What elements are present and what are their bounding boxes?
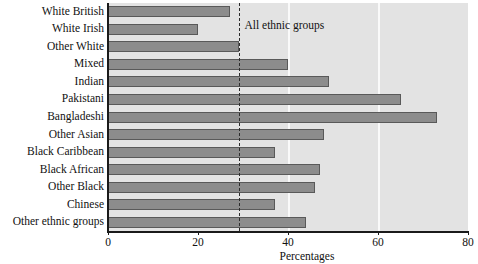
y-axis-line <box>107 3 109 232</box>
category-label-other-black: Other Black <box>48 180 104 192</box>
bar-row <box>108 59 468 70</box>
y-axis-category-labels: White BritishWhite IrishOther WhiteMixed… <box>0 0 104 264</box>
x-tick-label: 0 <box>88 236 128 248</box>
x-tick-label: 40 <box>268 236 308 248</box>
x-tick <box>288 231 289 235</box>
bar <box>108 94 401 105</box>
x-tick <box>198 231 199 235</box>
reference-line-all-ethnic-groups <box>239 3 240 231</box>
x-tick-label: 60 <box>358 236 398 248</box>
bar <box>108 6 230 17</box>
category-label-indian: Indian <box>75 75 104 87</box>
category-label-bangladeshi: Bangladeshi <box>47 110 104 122</box>
bar <box>108 59 288 70</box>
x-tick-label: 80 <box>448 236 478 248</box>
x-tick-label: 20 <box>178 236 218 248</box>
x-axis-title: Percentages <box>0 250 470 262</box>
bar <box>108 41 239 52</box>
category-label-pakistani: Pakistani <box>62 92 104 104</box>
x-tick <box>108 231 109 235</box>
bar-row <box>108 6 468 17</box>
bar-row <box>108 199 468 210</box>
bar-row <box>108 164 468 175</box>
category-label-other-white: Other White <box>47 40 104 52</box>
bar-row <box>108 41 468 52</box>
bar-row <box>108 129 468 140</box>
category-label-other-ethnic-groups: Other ethnic groups <box>13 215 104 227</box>
bar-row <box>108 217 468 228</box>
bar <box>108 24 198 35</box>
bar-row <box>108 147 468 158</box>
reference-line-label: All ethnic groups <box>245 19 325 31</box>
bar <box>108 217 306 228</box>
category-label-black-african: Black African <box>40 163 104 175</box>
bar <box>108 112 437 123</box>
x-tick <box>468 231 469 235</box>
bar <box>108 129 324 140</box>
bar <box>108 147 275 158</box>
bar-row <box>108 94 468 105</box>
bar-row <box>108 182 468 193</box>
category-label-mixed: Mixed <box>74 57 104 69</box>
category-label-chinese: Chinese <box>67 198 104 210</box>
bar-row <box>108 76 468 87</box>
category-label-other-asian: Other Asian <box>49 128 104 140</box>
x-tick <box>378 231 379 235</box>
category-label-black-caribbean: Black Caribbean <box>27 145 104 157</box>
x-axis-title-text: Percentages <box>280 250 335 262</box>
bar <box>108 199 275 210</box>
category-label-white-irish: White Irish <box>52 22 104 34</box>
bar <box>108 164 320 175</box>
bar <box>108 182 315 193</box>
bar <box>108 76 329 87</box>
plot-area <box>108 3 468 231</box>
category-label-white-british: White British <box>42 5 104 17</box>
bar-row <box>108 112 468 123</box>
